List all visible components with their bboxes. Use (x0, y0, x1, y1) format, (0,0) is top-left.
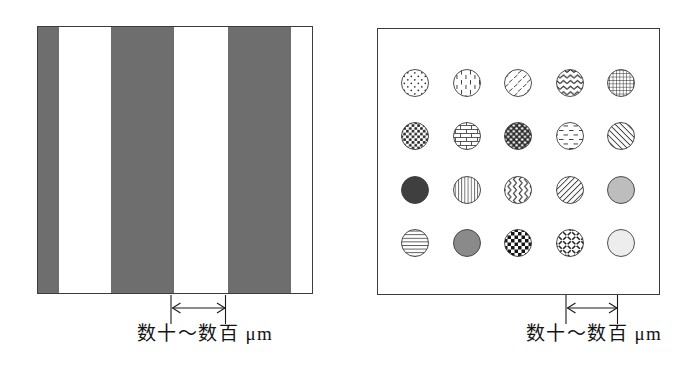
pattern-circle-checker (505, 230, 532, 257)
pattern-circle-grid (608, 70, 635, 97)
pattern-circle-dense-dots (402, 123, 429, 150)
pattern-circle-diagonal-dashes (505, 70, 532, 97)
pattern-circle-vertical-dashes (454, 70, 481, 97)
dimension-arrow-right (565, 295, 619, 325)
pattern-circle-diagonal-back (608, 123, 635, 150)
pattern-circle-horizontal-lines (402, 230, 429, 257)
dark-stripe (228, 27, 291, 293)
pattern-circle-basket-weave (557, 230, 584, 257)
dot-array-square (377, 28, 660, 295)
pattern-circle-solid-xlight (608, 230, 635, 257)
dimension-label-left: 数十～数百 μm (118, 322, 292, 346)
pattern-circle-grid (402, 70, 635, 257)
pattern-circle-solid-mid (454, 230, 481, 257)
figure-canvas: 数十～数百 μm (0, 0, 688, 378)
pattern-circle-vertical-lines (454, 177, 481, 204)
dark-stripe (111, 27, 174, 293)
pattern-circle-dots (402, 70, 429, 97)
pattern-circle-diagonal-fwd (557, 177, 584, 204)
pattern-circle-zigzag-horizontal (557, 70, 584, 97)
pattern-circle-zigzag-vertical (505, 177, 532, 204)
pattern-circle-solid-light (608, 177, 635, 204)
dark-stripe (38, 27, 59, 293)
pattern-circle-inverse-dots (505, 123, 532, 150)
dimension-arrow-left (170, 295, 227, 325)
pattern-circle-horizontal-dashes (557, 123, 584, 150)
pattern-circle-solid-dark (402, 177, 429, 204)
dimension-label-right: 数十～数百 μm (506, 322, 682, 346)
pattern-circle-brick (454, 123, 481, 150)
stripe-pattern-square (37, 26, 313, 294)
